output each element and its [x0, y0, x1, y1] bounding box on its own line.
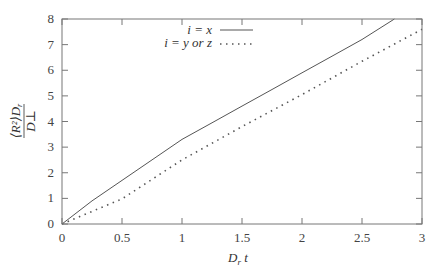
svg-text:D⊥: D⊥ [23, 110, 38, 133]
svg-text:⟨R²⟩Dr: ⟨R²⟩Dr [8, 103, 24, 138]
y-tick-label: 2 [48, 165, 55, 180]
x-tick-label: 0 [59, 230, 66, 245]
x-axis-label: Dr t [227, 250, 248, 267]
series-layer [62, 19, 422, 224]
y-tick-label: 1 [48, 190, 55, 205]
y-tick-label: 6 [48, 62, 55, 77]
x-tick-label: 3 [419, 230, 426, 245]
y-tick-label: 8 [48, 11, 55, 26]
legend-label-yz: i = y or z [164, 35, 212, 50]
y-axis-label: ⟨R²⟩Dr D⊥ [8, 103, 38, 138]
y-tick-label: 4 [48, 114, 55, 129]
chart-canvas: 00.511.522.53012345678 i = x i = y or z … [0, 0, 443, 276]
plot-frame [62, 19, 422, 224]
series-yz-dotted [62, 29, 422, 224]
series-x-solid [62, 19, 394, 224]
svg-text:Dr t: Dr t [227, 250, 248, 267]
tick-labels: 00.511.522.53012345678 [48, 11, 426, 245]
x-tick-label: 1.5 [234, 230, 250, 245]
x-tick-label: 0.5 [114, 230, 130, 245]
y-tick-label: 5 [48, 88, 55, 103]
axis-ticks [62, 19, 422, 224]
y-tick-label: 0 [48, 216, 55, 231]
x-tick-label: 2.5 [354, 230, 370, 245]
x-tick-label: 2 [299, 230, 306, 245]
y-tick-label: 7 [48, 37, 55, 52]
legend: i = x i = y or z [164, 22, 253, 50]
x-tick-label: 1 [179, 230, 186, 245]
y-tick-label: 3 [48, 139, 55, 154]
